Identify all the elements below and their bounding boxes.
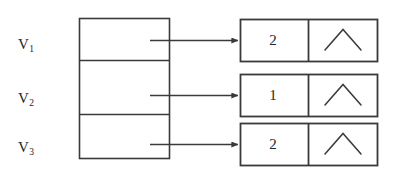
vertex-label-v2-base: V <box>18 90 29 106</box>
vertex-label-v3-base: V <box>18 139 29 155</box>
vertex-label-v3-sub: 3 <box>29 147 34 157</box>
list-node-1-value: 2 <box>251 33 295 48</box>
vertex-label-v1-base: V <box>18 36 29 52</box>
adjacency-list-figure <box>0 0 398 179</box>
vertex-label-v1: V1 <box>18 37 34 52</box>
vertex-label-v2-sub: 2 <box>29 98 34 108</box>
vertex-label-v1-sub: 1 <box>29 44 34 54</box>
vertex-table <box>80 19 170 159</box>
diagram-canvas: V1 V2 V3 2 1 2 <box>0 0 398 179</box>
list-node-2-value: 1 <box>251 88 295 103</box>
vertex-label-v3: V3 <box>18 140 34 155</box>
vertex-label-v2: V2 <box>18 91 34 106</box>
vertex-table-outline <box>80 19 170 159</box>
list-node-3-value: 2 <box>251 137 295 152</box>
